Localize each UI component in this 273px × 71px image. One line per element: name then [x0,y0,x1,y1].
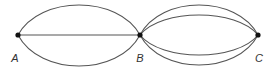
edge-a-b [18,35,140,66]
edge-b-c [140,35,258,65]
edge-b-c [140,35,258,55]
node-b-dot [137,32,142,37]
labels-layer: ABC [10,52,263,64]
node-a-label: A [10,52,18,64]
node-b-label: B [136,52,143,64]
node-c-label: C [255,52,263,64]
multigraph-diagram: ABC [0,0,273,71]
node-a-dot [15,32,20,37]
node-c-dot [255,32,260,37]
edge-a-b [18,5,140,35]
edge-b-c [140,5,258,35]
edge-b-c [140,15,258,35]
